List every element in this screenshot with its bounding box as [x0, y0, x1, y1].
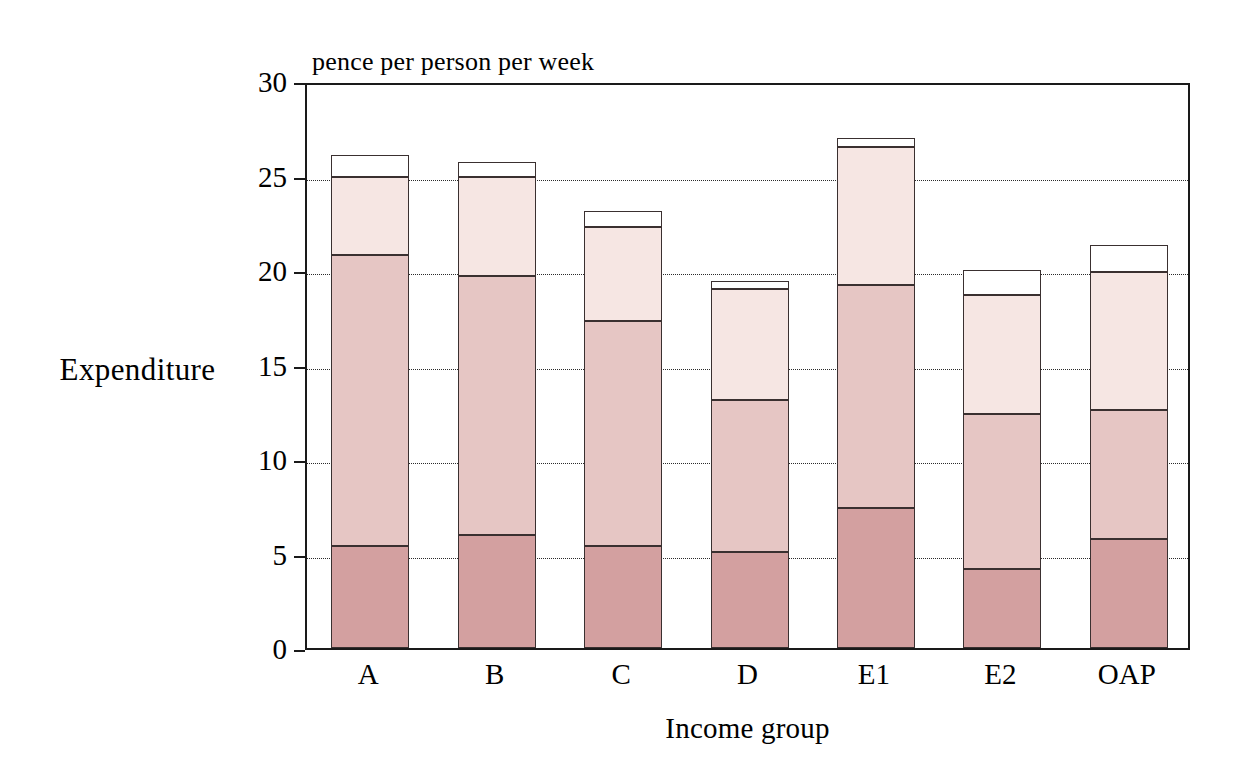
bar-segment-2 — [458, 276, 536, 535]
bar-segment-2 — [963, 414, 1041, 569]
y-axis-tick-label: 30 — [227, 68, 287, 97]
bar-segment-1 — [837, 508, 915, 648]
bar-segment-2 — [331, 255, 409, 546]
x-axis-tick-group: ABCDE1E2OAP — [305, 660, 1190, 704]
bar-b — [458, 81, 536, 648]
bar-c — [584, 81, 662, 648]
x-axis-tick-label: D — [684, 660, 810, 689]
y-axis-tick-mark — [294, 83, 305, 85]
x-axis-tick-label: E2 — [937, 660, 1063, 689]
bar-e2 — [963, 81, 1041, 648]
y-axis-tick-label: 15 — [227, 352, 287, 381]
y-axis-tick-group: 051015202530 — [0, 0, 305, 772]
y-axis-tick-label: 0 — [227, 635, 287, 664]
bar-segment-4 — [963, 270, 1041, 295]
bar-a — [331, 81, 409, 648]
bar-d — [711, 81, 789, 648]
bar-segment-4 — [331, 155, 409, 178]
bar-segment-4 — [711, 281, 789, 289]
bar-segment-1 — [711, 552, 789, 648]
bar-segment-1 — [584, 546, 662, 648]
bar-segment-1 — [1090, 539, 1168, 648]
x-axis-tick-label: E1 — [811, 660, 937, 689]
y-axis-tick-label: 20 — [227, 257, 287, 286]
bar-segment-1 — [458, 535, 536, 648]
stacked-bar-chart: Expenditure pence per person per week 05… — [0, 0, 1246, 772]
plot-area — [305, 83, 1190, 650]
bar-e1 — [837, 81, 915, 648]
bar-oap — [1090, 81, 1168, 648]
y-axis-tick-mark — [294, 461, 305, 463]
x-axis-tick-label: OAP — [1064, 660, 1190, 689]
y-axis-tick-mark — [294, 556, 305, 558]
x-axis-tick-label: A — [305, 660, 431, 689]
bar-segment-2 — [711, 400, 789, 551]
bar-segment-3 — [458, 177, 536, 275]
y-axis-tick-label: 25 — [227, 163, 287, 192]
bars-layer — [307, 85, 1188, 648]
bar-segment-2 — [1090, 410, 1168, 539]
y-axis-tick-mark — [294, 650, 305, 652]
y-axis-tick-mark — [294, 178, 305, 180]
bar-segment-2 — [584, 321, 662, 546]
y-axis-tick-mark — [294, 272, 305, 274]
x-axis-tick-label: C — [558, 660, 684, 689]
bar-segment-1 — [963, 569, 1041, 648]
bar-segment-3 — [331, 177, 409, 254]
y-axis-tick-label: 10 — [227, 446, 287, 475]
bar-segment-3 — [837, 147, 915, 285]
bar-segment-3 — [711, 289, 789, 401]
bar-segment-2 — [837, 285, 915, 508]
chart-units-title: pence per person per week — [312, 47, 594, 77]
bar-segment-4 — [1090, 245, 1168, 271]
y-axis-tick-label: 5 — [227, 541, 287, 570]
x-axis-title: Income group — [305, 712, 1190, 745]
bar-segment-1 — [331, 546, 409, 648]
bar-segment-3 — [1090, 272, 1168, 410]
bar-segment-4 — [458, 162, 536, 177]
bar-segment-4 — [837, 138, 915, 147]
x-axis-tick-label: B — [431, 660, 557, 689]
bar-segment-3 — [963, 295, 1041, 414]
bar-segment-3 — [584, 227, 662, 322]
bar-segment-4 — [584, 211, 662, 226]
y-axis-tick-mark — [294, 367, 305, 369]
